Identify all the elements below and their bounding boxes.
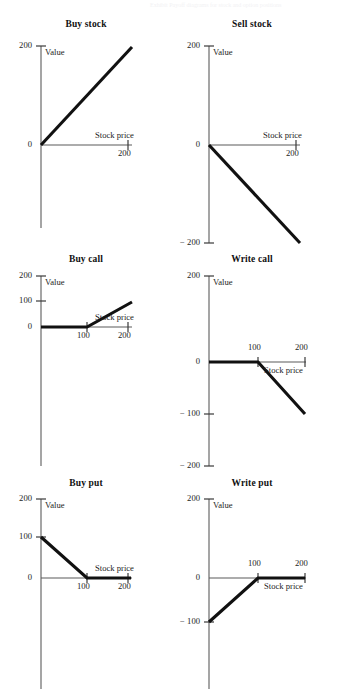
ytick-100-buy-put: 100	[4, 531, 32, 541]
panel-sell-stock: Sell stock 200 0 − 200 200 Value Stock p…	[172, 0, 344, 245]
plot-area-buy-stock	[0, 0, 172, 230]
ytick-200-write-put: 200	[172, 493, 200, 503]
ytick-0-buy-put: 0	[4, 572, 32, 582]
xtick-200-sell-stock: 200	[286, 148, 299, 158]
payoff-diagram-figure: Exhibit Payoff diagrams for stock and op…	[0, 0, 344, 691]
ytick-0-sell-stock: 0	[172, 139, 200, 149]
yaxis-label-write-put: Value	[213, 500, 233, 510]
ytick-0-write-put: 0	[172, 572, 200, 582]
xtick-200-buy-stock: 200	[118, 148, 131, 158]
xtick-100-buy-call: 100	[77, 330, 90, 340]
xaxis-label-buy-put: Stock price	[95, 563, 134, 573]
ytick-neg100-write-put: − 100	[166, 616, 200, 626]
xaxis-label-buy-stock: Stock price	[95, 130, 134, 140]
yaxis-label-buy-call: Value	[45, 277, 65, 287]
ytick-0-write-call: 0	[172, 356, 200, 366]
xtick-100-write-call: 100	[248, 342, 261, 352]
ytick-200-write-call: 200	[172, 270, 200, 280]
panel-write-call: Write call 200 0 − 100 − 200 100 200 Val…	[172, 245, 344, 468]
plot-area-sell-stock	[172, 0, 344, 245]
ytick-0-buy-call: 0	[4, 321, 32, 331]
xaxis-label-write-call: Stock price	[264, 365, 303, 375]
ytick-neg100-write-call: − 100	[166, 408, 200, 418]
ytick-200-buy-call: 200	[4, 270, 32, 280]
xtick-200-buy-put: 200	[118, 581, 131, 591]
xtick-200-write-call: 200	[295, 342, 308, 352]
ytick-200-buy-put: 200	[4, 493, 32, 503]
panel-buy-call: Buy call 200 100 0 100 200 Value Stock p…	[0, 245, 172, 468]
xaxis-label-buy-call: Stock price	[95, 312, 134, 322]
xtick-100-write-put: 100	[248, 558, 261, 568]
yaxis-label-write-call: Value	[213, 277, 233, 287]
xtick-100-buy-put: 100	[77, 581, 90, 591]
ytick-200-sell-stock: 200	[172, 40, 200, 50]
yaxis-label-sell-stock: Value	[213, 47, 233, 57]
panel-buy-put: Buy put 200 100 0 100 200 Value Stock pr…	[0, 468, 172, 691]
yaxis-label-buy-stock: Value	[45, 47, 65, 57]
ytick-0-buy-stock: 0	[4, 139, 32, 149]
ytick-100-buy-call: 100	[4, 295, 32, 305]
panel-buy-stock: Buy stock 200 0 200 Value Stock price	[0, 0, 172, 230]
yaxis-label-buy-put: Value	[45, 500, 65, 510]
xtick-200-buy-call: 200	[118, 330, 131, 340]
xaxis-label-sell-stock: Stock price	[263, 130, 302, 140]
xaxis-label-write-put: Stock price	[264, 581, 303, 591]
xtick-200-write-put: 200	[295, 558, 308, 568]
panel-write-put: Write put 200 0 − 100 100 200 Value Stoc…	[172, 468, 344, 691]
ytick-200-buy-stock: 200	[4, 40, 32, 50]
